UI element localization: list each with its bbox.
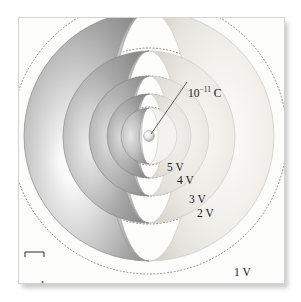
charge-mantissa: 10 [188,87,200,99]
scale-bar [25,252,44,257]
diagram-canvas [19,18,285,284]
scale-bar-label: 1 cm [40,280,61,284]
equipotential-label-1v: 1 V [234,267,251,279]
point-charge-highlight [145,133,149,136]
figure-panel: 10−11 C 5 V 4 V 3 V 2 V 1 V 1 cm [18,17,285,284]
point-charge-sphere [144,131,155,142]
charge-unit: C [211,87,222,99]
figure-root: 10−11 C 5 V 4 V 3 V 2 V 1 V 1 cm [0,0,301,302]
charge-magnitude-label: 10−11 C [188,88,222,100]
equipotential-label-3v: 3 V [189,194,206,206]
equipotential-label-5v: 5 V [167,162,184,174]
equipotential-label-2v: 2 V [197,208,214,220]
charge-exponent: −11 [200,85,211,94]
equipotential-label-4v: 4 V [177,175,194,187]
